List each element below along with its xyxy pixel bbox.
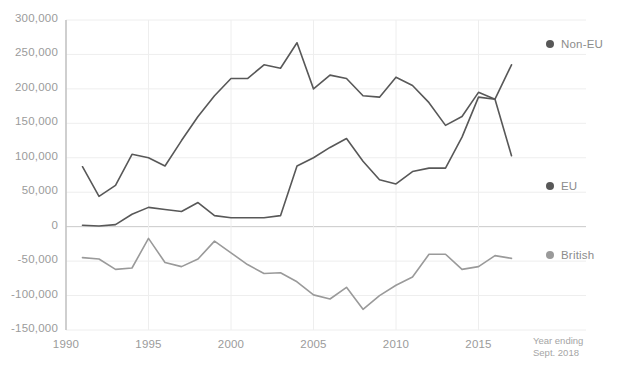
legend-dot-icon xyxy=(546,182,554,190)
legend-dot-icon xyxy=(546,40,554,48)
legend-item-british[interactable]: British xyxy=(546,249,594,261)
y-axis-tick-label: 0 xyxy=(0,219,58,231)
chart-container: 300,000250,000200,000150,000100,00050,00… xyxy=(0,0,623,368)
y-axis-tick-label: 250,000 xyxy=(0,46,58,58)
series-line-eu xyxy=(83,97,512,226)
x-axis-tick-label: 2000 xyxy=(201,338,261,350)
y-axis-tick-label: -150,000 xyxy=(0,322,58,334)
chart-annotation-line-2: Sept. 2018 xyxy=(533,347,583,359)
y-axis-tick-label: 200,000 xyxy=(0,81,58,93)
y-axis-tick-label: -100,000 xyxy=(0,288,58,300)
chart-annotation: Year endingSept. 2018 xyxy=(533,335,583,359)
chart-plot-area xyxy=(0,0,623,368)
legend-label: British xyxy=(561,249,594,261)
y-axis-tick-label: 150,000 xyxy=(0,115,58,127)
x-axis-tick-label: 2015 xyxy=(449,338,509,350)
y-axis-tick-label: 100,000 xyxy=(0,150,58,162)
x-axis-tick-label: 1990 xyxy=(36,338,96,350)
legend-label: Non-EU xyxy=(561,38,603,50)
series-line-non-eu xyxy=(83,43,512,197)
legend-label: EU xyxy=(561,180,577,192)
chart-annotation-line-1: Year ending xyxy=(533,335,583,347)
y-axis-tick-label: 300,000 xyxy=(0,12,58,24)
x-axis-tick-label: 1995 xyxy=(119,338,179,350)
y-axis-tick-label: -50,000 xyxy=(0,253,58,265)
series-line-british xyxy=(83,238,512,309)
y-axis-tick-label: 50,000 xyxy=(0,184,58,196)
x-axis-tick-label: 2010 xyxy=(366,338,426,350)
legend-item-eu[interactable]: EU xyxy=(546,180,577,192)
x-axis-tick-label: 2005 xyxy=(284,338,344,350)
legend-item-non-eu[interactable]: Non-EU xyxy=(546,38,603,50)
legend-dot-icon xyxy=(546,251,554,259)
